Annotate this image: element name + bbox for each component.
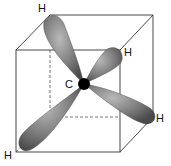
carbon-nucleus — [78, 78, 90, 90]
label-carbon: C — [65, 78, 73, 90]
orbital-diagram: H H H H C — [0, 0, 171, 166]
label-h-right-lower: H — [156, 112, 164, 124]
label-h-right-upper: H — [124, 46, 132, 58]
label-h-bottom-left: H — [4, 149, 12, 161]
lobe-lower-right — [84, 84, 155, 124]
label-h-top: H — [38, 2, 46, 14]
lobe-bottom-left — [19, 84, 84, 151]
lobe-upper-right — [84, 48, 122, 84]
